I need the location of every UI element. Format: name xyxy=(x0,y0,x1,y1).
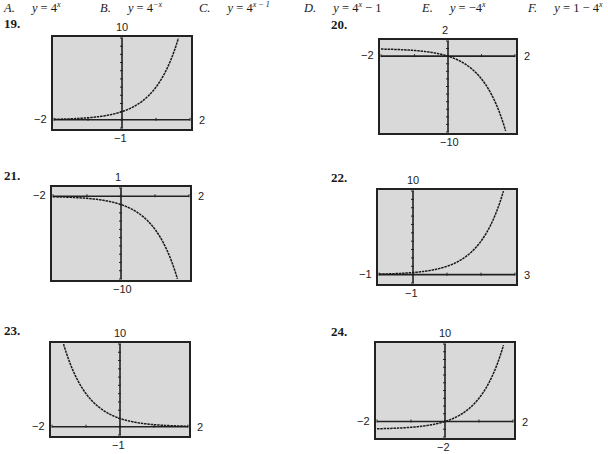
choice-b: B. y = 4−x xyxy=(100,0,162,16)
xmin-label: −2 xyxy=(32,420,45,432)
graph-23 xyxy=(49,341,191,438)
choice-c: C. y = 4x − 1 xyxy=(199,0,270,16)
xmax-label: 2 xyxy=(198,190,204,202)
ymin-label: −2 xyxy=(437,441,450,453)
ymax-label: 10 xyxy=(439,327,451,339)
choice-f: F. y = 1 − 4x xyxy=(528,0,603,16)
xmin-label: −1 xyxy=(359,268,372,280)
problem-number: 22. xyxy=(331,170,347,186)
problem-number: 23. xyxy=(4,323,20,339)
graph-24 xyxy=(374,341,516,440)
problem-number: 21. xyxy=(4,168,20,184)
choice-e: E. y = −4x xyxy=(422,0,486,16)
ymin-label: −10 xyxy=(440,136,459,148)
xmax-label: 2 xyxy=(199,114,205,126)
ymin-label: −1 xyxy=(114,132,127,144)
problem-number: 20. xyxy=(331,17,347,33)
ymin-label: −1 xyxy=(112,439,125,451)
graph-22 xyxy=(376,188,518,286)
graph-21 xyxy=(50,185,192,282)
ymin-label: −1 xyxy=(405,287,418,299)
xmin-label: −2 xyxy=(34,113,47,125)
xmin-label: −2 xyxy=(357,415,370,427)
ymax-label: 1 xyxy=(115,171,121,183)
ymax-label: 2 xyxy=(442,24,448,36)
ymin-label: −10 xyxy=(113,283,132,295)
xmin-label: −2 xyxy=(361,49,374,61)
xmax-label: 3 xyxy=(524,269,530,281)
ymax-label: 10 xyxy=(114,327,126,339)
xmax-label: 2 xyxy=(522,416,528,428)
xmax-label: 2 xyxy=(524,50,530,62)
xmin-label: −2 xyxy=(33,189,46,201)
choice-a: A. y = 4x xyxy=(4,0,61,16)
xmax-label: 2 xyxy=(197,421,203,433)
problem-number: 24. xyxy=(331,324,347,340)
choice-d: D. y = 4x − 1 xyxy=(304,0,382,16)
graph-19 xyxy=(51,35,193,131)
ymax-label: 10 xyxy=(407,174,419,186)
graph-20 xyxy=(378,38,518,135)
problem-number: 19. xyxy=(4,16,20,32)
ymax-label: 10 xyxy=(116,21,128,33)
